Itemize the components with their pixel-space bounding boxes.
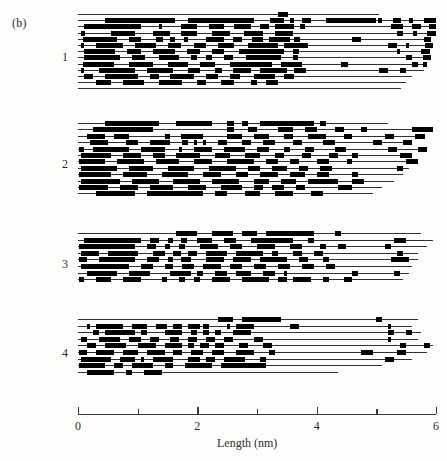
- trace-segment: [93, 147, 129, 152]
- trace-segment: [150, 185, 174, 190]
- trace-segment: [96, 80, 111, 85]
- trace-segment: [218, 43, 234, 48]
- trace-segment: [206, 357, 215, 362]
- trace-segment: [284, 271, 287, 276]
- trace-segment: [147, 257, 159, 262]
- trace-segment: [233, 330, 251, 335]
- trace-segment: [269, 350, 275, 355]
- trace-segment: [300, 24, 305, 29]
- trace-segment: [248, 127, 257, 132]
- trace-segment: [168, 62, 189, 67]
- trace-segment: [153, 357, 174, 362]
- trace-segment: [275, 191, 293, 196]
- trace-segment: [406, 330, 412, 335]
- trace-segment: [194, 277, 200, 282]
- trace-segment: [170, 37, 174, 42]
- trace-segment: [135, 43, 156, 48]
- trace-segment: [245, 191, 260, 196]
- trace-segment: [293, 49, 299, 54]
- trace-segment: [87, 134, 105, 139]
- trace-segment: [194, 140, 197, 145]
- trace-segment: [397, 251, 403, 256]
- trace-segment: [165, 363, 174, 368]
- trace-segment: [278, 264, 290, 269]
- trace-segment: [302, 264, 314, 269]
- trace-segment: [206, 37, 224, 42]
- trace-segment: [194, 147, 212, 152]
- trace-segment: [182, 140, 188, 145]
- trace-segment: [284, 43, 308, 48]
- trace-segment: [423, 62, 427, 67]
- trace-segment: [254, 134, 269, 139]
- trace-segment: [272, 166, 287, 171]
- trace-segment: [236, 271, 251, 276]
- trace-row: [78, 166, 409, 171]
- trace-row: [78, 244, 427, 249]
- trace-segment: [275, 31, 293, 36]
- trace-segment: [188, 357, 200, 362]
- trace-segment: [242, 317, 281, 322]
- axis-tick-major-0: [78, 407, 79, 414]
- trace-row: [78, 191, 373, 196]
- trace-segment: [278, 12, 288, 17]
- trace-segment: [93, 330, 99, 335]
- trace-segment: [99, 257, 135, 262]
- trace-segment: [296, 185, 305, 190]
- trace-row: [78, 12, 379, 17]
- trace-segment: [197, 238, 212, 243]
- trace-segment: [150, 140, 171, 145]
- trace-segment: [168, 257, 174, 262]
- trace-segment: [230, 62, 272, 67]
- trace-segment: [84, 55, 120, 60]
- trace-segment: [218, 317, 233, 322]
- trace-segment: [153, 153, 165, 158]
- trace-segment: [188, 251, 197, 256]
- trace-segment: [361, 350, 373, 355]
- trace-segment: [385, 357, 394, 362]
- trace-segment: [246, 55, 281, 60]
- trace-segment: [105, 18, 175, 23]
- trace-segment: [385, 134, 394, 139]
- trace-segment: [153, 49, 175, 54]
- trace-segment: [320, 121, 326, 126]
- trace-segment: [188, 337, 197, 342]
- trace-segment: [150, 337, 159, 342]
- figure-panel-b: (b) 1234 0246 Length (nm): [0, 0, 447, 461]
- trace-baseline: [78, 149, 427, 150]
- trace-segment: [233, 37, 242, 42]
- trace-segment: [120, 357, 135, 362]
- trace-segment: [230, 244, 242, 249]
- trace-segment: [141, 357, 144, 362]
- trace-segment: [141, 264, 153, 269]
- trace-segment: [184, 37, 188, 42]
- trace-segment: [129, 337, 141, 342]
- trace-segment: [191, 330, 197, 335]
- trace-segment: [409, 18, 413, 23]
- trace-baseline: [78, 136, 425, 137]
- trace-segment: [400, 68, 406, 73]
- trace-segment: [388, 330, 394, 335]
- trace-row: [78, 147, 427, 152]
- trace-segment: [423, 55, 431, 60]
- trace-segment: [352, 172, 358, 177]
- trace-segment: [165, 264, 174, 269]
- trace-segment: [257, 244, 275, 249]
- trace-segment: [206, 55, 212, 60]
- trace-segment: [227, 159, 254, 164]
- trace-segment: [260, 24, 269, 29]
- trace-row: [78, 18, 435, 23]
- trace-segment: [123, 172, 147, 177]
- trace-segment: [215, 330, 221, 335]
- trace-segment: [105, 121, 159, 126]
- trace-segment: [290, 18, 294, 23]
- trace-segment: [388, 337, 391, 342]
- trace-segment: [308, 179, 338, 184]
- trace-segment: [290, 172, 305, 177]
- trace-segment: [245, 153, 260, 158]
- trace-baseline: [78, 88, 401, 89]
- trace-segment: [311, 191, 323, 196]
- trace-row: [78, 159, 418, 164]
- trace-row: [78, 330, 421, 335]
- trace-segment: [239, 343, 248, 348]
- trace-segment: [111, 31, 135, 36]
